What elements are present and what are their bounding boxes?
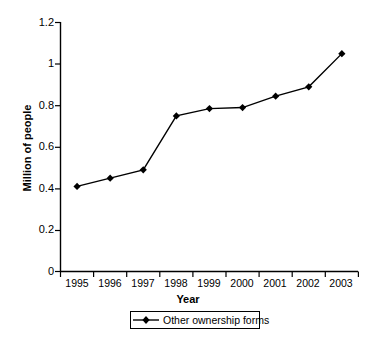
x-tick-label-2003: 2003 [321, 278, 361, 289]
x-axis-title: Year [0, 293, 376, 305]
data-point-marker [173, 112, 180, 119]
data-point-marker [73, 183, 80, 190]
series-line-other-ownership-forms [77, 54, 342, 187]
legend: Other ownership forms [130, 311, 260, 329]
data-point-marker [107, 175, 114, 182]
data-point-marker [272, 93, 279, 100]
data-point-marker [140, 166, 147, 173]
line-chart: Million of people 1.2 1 0.8 0.6 0.4 0.2 … [0, 0, 376, 352]
series-markers [73, 50, 345, 190]
diamond-marker-icon [131, 312, 161, 328]
data-point-marker [239, 104, 246, 111]
y-axis-ticks [55, 23, 61, 272]
legend-item-label: Other ownership forms [161, 314, 269, 326]
data-point-marker [206, 105, 213, 112]
